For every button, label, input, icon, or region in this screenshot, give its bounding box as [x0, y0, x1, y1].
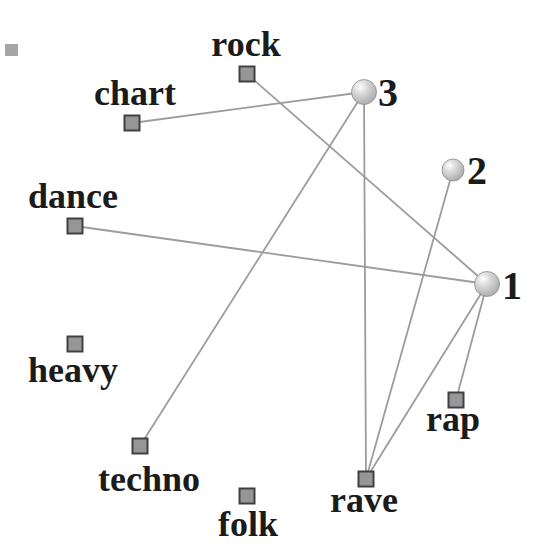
genre-label-folk: folk	[218, 504, 278, 544]
genre-node-dance	[68, 219, 83, 234]
genre-node-chart	[125, 116, 140, 131]
genre-node-rock	[240, 67, 255, 82]
cluster-label-2: 2	[467, 148, 487, 193]
genre-node-folk	[240, 489, 255, 504]
genre-label-dance: dance	[28, 176, 118, 216]
network-diagram: rockchartdanceheavytechnofolkraverap123	[0, 0, 539, 560]
genre-node-techno	[133, 439, 148, 454]
genre-label-chart: chart	[94, 73, 176, 113]
cluster-node-2	[442, 159, 464, 181]
cluster-label-1: 1	[502, 263, 522, 308]
cluster-label-3: 3	[378, 70, 398, 115]
genre-label-rave: rave	[330, 480, 398, 520]
genre-label-rock: rock	[211, 24, 280, 64]
edge-dance-c1	[75, 226, 487, 284]
edge-rap-c1	[456, 284, 487, 400]
scan-artifact-square	[5, 44, 18, 56]
cluster-node-1	[475, 272, 500, 297]
edge-rave-c3	[364, 92, 366, 479]
edge-rave-c1	[366, 284, 487, 479]
cluster-node-3	[352, 80, 377, 105]
genre-label-rap: rap	[426, 399, 480, 439]
genre-cluster-graph: rockchartdanceheavytechnofolkraverap123	[0, 0, 539, 560]
genre-label-heavy: heavy	[28, 350, 118, 390]
edge-techno-c3	[140, 92, 364, 446]
genre-label-techno: techno	[98, 459, 200, 499]
